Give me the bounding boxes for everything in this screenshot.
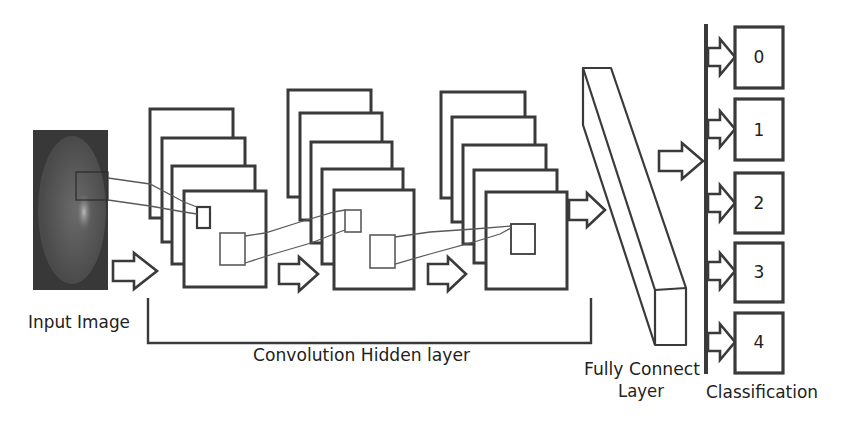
class-label-1: 1 [754,120,765,140]
input-image [33,130,108,290]
class-label-0: 0 [754,47,765,67]
arrow-right-icon [708,39,735,75]
cnn-diagram: 0 1 2 3 4 Input Image Convolution Hidden… [0,0,846,431]
feature-map [334,190,414,289]
class-label-2: 2 [754,193,765,213]
conv-stack-1 [150,109,266,287]
arrow-right-icon [428,257,466,291]
arrow-right-icon [279,257,318,291]
conv-stack-3 [441,92,567,289]
conv-stack-2 [288,90,414,289]
classification-label: Classification [706,382,818,402]
arrow-right-icon [708,324,735,360]
arrow-right-icon [708,185,735,221]
arrow-right-icon [569,193,605,227]
arrow-right-icon [113,253,157,289]
arrow-right-icon [659,143,703,179]
conv-bracket [148,298,591,343]
class-outputs [708,27,783,373]
fully-connect-label: Fully Connect [584,359,700,379]
feature-map [486,192,567,289]
input-image-label: Input Image [28,312,130,332]
feature-map [184,191,266,287]
arrow-right-icon [708,111,735,147]
class-label-4: 4 [754,332,765,352]
arrow-right-icon [708,253,735,289]
class-label-3: 3 [754,262,765,282]
fully-connect-label-line2: Layer [618,381,664,401]
conv-hidden-layer-label: Convolution Hidden layer [253,345,470,365]
